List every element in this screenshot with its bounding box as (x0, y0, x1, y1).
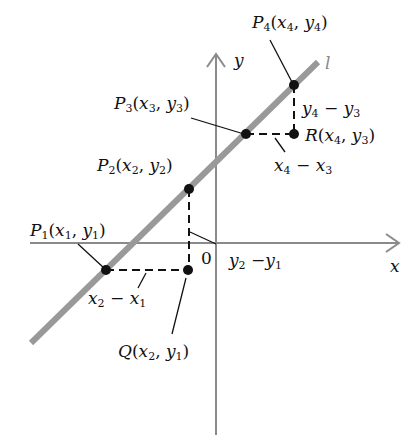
point-q (183, 265, 193, 275)
label-rise-y2-y1: y2 −y1 (229, 252, 282, 271)
y-axis-label: y (234, 52, 244, 69)
label-r: R(x4, y3) (305, 127, 375, 146)
point-p3 (241, 129, 251, 139)
label-run-x4-x3: x4 − x3 (274, 157, 332, 176)
point-p1 (101, 265, 111, 275)
point-r (289, 129, 299, 139)
label-run-x2-x1: x2 − x1 (88, 290, 146, 309)
point-p4 (289, 80, 299, 90)
label-p3: P3(x3, y3) (114, 95, 190, 114)
y-axis (207, 54, 225, 435)
origin-label: 0 (201, 250, 212, 267)
label-q: Q(x2, y1) (118, 343, 189, 362)
label-p1: P1(x1, y1) (30, 222, 106, 241)
line-label: l (325, 55, 330, 72)
x-axis-label: x (390, 258, 400, 275)
point-p2 (184, 184, 194, 194)
label-p2: P2(x2, y2) (97, 157, 173, 176)
slope-diagram: y x 0 l P4(x4, y4) P3(x3, y3) R(x4, y3) … (0, 0, 414, 445)
label-p4: P4(x4, y4) (252, 14, 328, 33)
label-rise-y4-y3: y4 − y3 (302, 100, 360, 119)
